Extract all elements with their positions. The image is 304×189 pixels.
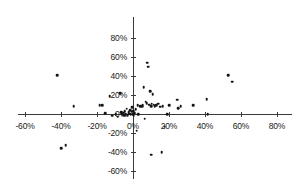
data-point — [146, 61, 149, 64]
data-point — [192, 104, 195, 107]
x-tick-label: 80% — [269, 121, 285, 131]
data-point — [60, 147, 63, 150]
y-tick-label: 60% — [0, 52, 127, 62]
data-point — [137, 113, 140, 116]
y-tick-mark — [131, 38, 136, 39]
y-tick-mark — [131, 133, 136, 134]
data-point — [56, 74, 59, 77]
data-point — [150, 154, 153, 157]
y-tick-mark — [131, 171, 136, 172]
data-point — [161, 105, 164, 108]
y-tick-label: 80% — [0, 33, 127, 43]
data-point — [119, 92, 122, 95]
y-tick-label: -40% — [0, 147, 127, 157]
x-tick-mark — [241, 112, 242, 117]
data-point — [135, 129, 138, 132]
data-point — [168, 104, 171, 107]
data-point — [125, 107, 128, 110]
y-axis-line — [133, 17, 134, 179]
x-tick-label: 40% — [197, 121, 213, 131]
data-point — [179, 105, 182, 108]
data-point — [163, 126, 166, 129]
data-point — [166, 113, 169, 116]
y-tick-mark — [131, 152, 136, 153]
data-point — [101, 104, 104, 107]
data-point — [131, 106, 134, 109]
x-tick-mark — [169, 112, 170, 117]
data-point — [72, 105, 75, 108]
data-point — [64, 144, 67, 147]
data-point — [111, 115, 114, 118]
y-tick-label: -60% — [0, 166, 127, 176]
data-point — [108, 95, 111, 98]
data-point — [143, 117, 146, 120]
data-point — [176, 98, 179, 101]
data-point — [104, 112, 107, 115]
y-tick-mark — [131, 76, 136, 77]
data-point — [152, 93, 155, 96]
data-point — [147, 65, 150, 68]
data-point — [231, 80, 234, 83]
data-point — [206, 113, 209, 116]
data-point — [134, 108, 137, 111]
y-tick-label: -20% — [0, 128, 127, 138]
data-point — [143, 86, 146, 89]
data-point — [134, 112, 137, 115]
x-tick-mark — [277, 112, 278, 117]
x-tick-label: 60% — [233, 121, 249, 131]
data-point — [116, 116, 119, 119]
data-point — [133, 115, 136, 118]
data-point — [177, 107, 180, 110]
data-point — [227, 74, 230, 77]
data-point — [206, 98, 209, 101]
y-tick-mark — [131, 95, 136, 96]
y-tick-mark — [131, 57, 136, 58]
scatter-chart: -60%-40%-20%0%20%40%60%80% -60%-40%-20%0… — [0, 0, 304, 189]
y-tick-label: 0% — [0, 109, 127, 119]
data-point — [157, 102, 160, 105]
data-point — [142, 103, 145, 106]
data-point — [161, 151, 164, 154]
y-tick-label: 40% — [0, 71, 127, 81]
